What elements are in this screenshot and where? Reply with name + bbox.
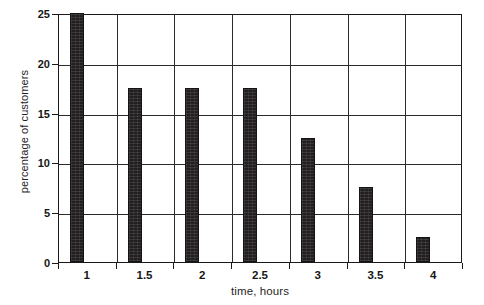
bar-1 [70,13,84,262]
bar-3-5 [359,187,373,262]
y-tick-label-20: 20 [18,58,50,69]
y-tick-mark-5 [52,213,58,214]
gridline-y-5 [59,214,461,215]
plot-area [58,14,462,263]
bar-1-5 [128,88,142,262]
y-tick-label-25: 25 [18,9,50,20]
x-tick-label-2: 2 [182,270,222,282]
y-tick-label-0: 0 [18,258,50,269]
gridline-x-2 [174,15,175,262]
y-tick-mark-25 [52,14,58,15]
x-tick-label-3-5: 3.5 [355,270,395,282]
gridline-x-4 [290,15,291,262]
y-tick-mark-15 [52,114,58,115]
x-tick-mark-3 [231,263,232,269]
x-tick-label-2-5: 2.5 [240,270,280,282]
x-tick-mark-0 [58,263,59,269]
x-tick-label-3: 3 [298,270,338,282]
y-tick-mark-10 [52,163,58,164]
x-tick-mark-7 [462,263,463,269]
x-tick-mark-2 [173,263,174,269]
x-tick-label-1: 1 [67,270,107,282]
y-tick-label-15: 15 [18,108,50,119]
x-tick-mark-6 [404,263,405,269]
bar-chart: percentage of customers 0 5 10 15 20 25 [0,0,484,305]
bar-2-5 [243,88,257,262]
bar-4 [416,237,430,262]
y-tick-label-10: 10 [18,158,50,169]
bar-3 [301,138,315,263]
x-tick-label-4: 4 [413,270,453,282]
gridline-x-1 [117,15,118,262]
gridline-x-5 [348,15,349,262]
bar-2 [185,88,199,262]
gridline-x-6 [405,15,406,262]
gridline-y-10 [59,164,461,165]
gridline-y-20 [59,65,461,66]
x-tick-mark-1 [116,263,117,269]
gridline-x-3 [232,15,233,262]
gridline-y-15 [59,115,461,116]
y-tick-label-5: 5 [18,208,50,219]
y-axis-title: percentage of customers [14,0,34,263]
x-axis-title: time, hours [58,285,462,297]
x-tick-mark-5 [347,263,348,269]
y-tick-mark-20 [52,64,58,65]
x-tick-mark-4 [289,263,290,269]
x-tick-label-1-5: 1.5 [125,270,165,282]
